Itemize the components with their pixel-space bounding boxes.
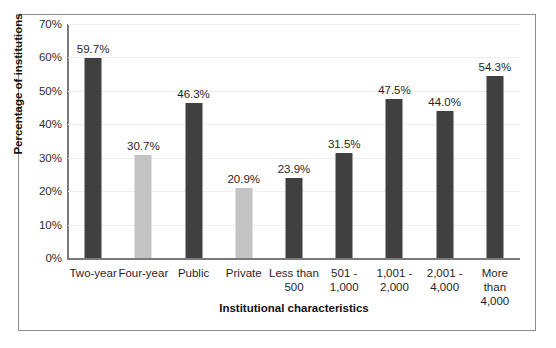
y-axis-tick-label: 60% — [18, 51, 62, 63]
bar-value-label: 46.3% — [177, 88, 210, 100]
x-axis-category-label: Private — [219, 266, 269, 280]
y-axis-tick-label: 30% — [18, 152, 62, 164]
y-axis-tick-label: 0% — [18, 252, 62, 264]
x-axis-category-label: 2,001 - 4,000 — [420, 266, 470, 294]
bar-group: 46.3% — [168, 24, 218, 258]
y-axis-tick-label: 20% — [18, 185, 62, 197]
y-axis-tick-label: 70% — [18, 18, 62, 30]
x-axis-category-label: Two-year — [68, 266, 118, 280]
bar — [135, 155, 152, 258]
bar-value-label: 47.5% — [378, 84, 411, 96]
bar — [386, 99, 403, 258]
gridline — [68, 258, 520, 259]
plot-area: 59.7%30.7%46.3%20.9%23.9%31.5%47.5%44.0%… — [68, 24, 520, 258]
bar-group: 44.0% — [420, 24, 470, 258]
x-axis-category-label: Four-year — [118, 266, 168, 280]
x-axis-title: Institutional characteristics — [68, 302, 520, 314]
bar-value-label: 23.9% — [278, 163, 311, 175]
bar-group: 30.7% — [118, 24, 168, 258]
bar-group: 20.9% — [219, 24, 269, 258]
bar-value-label: 44.0% — [428, 96, 461, 108]
bar-value-label: 31.5% — [328, 138, 361, 150]
x-axis-category-label: Public — [168, 266, 218, 280]
y-axis-tick-label: 50% — [18, 85, 62, 97]
bar-group: 31.5% — [319, 24, 369, 258]
bar — [235, 188, 252, 258]
y-axis-tick-label: 10% — [18, 219, 62, 231]
bar-value-label: 30.7% — [127, 140, 160, 152]
bar-chart-figure: 70%60%50%40%30%20%10%0% 59.7%30.7%46.3%2… — [0, 0, 556, 348]
bar-value-label: 54.3% — [479, 61, 512, 73]
x-axis-category-label: 1,001 - 2,000 — [369, 266, 419, 294]
bar-group: 54.3% — [470, 24, 520, 258]
y-axis-tick-label: 40% — [18, 118, 62, 130]
bar — [285, 178, 302, 258]
bar-value-label: 20.9% — [227, 173, 260, 185]
bar-group: 47.5% — [369, 24, 419, 258]
bar — [336, 153, 353, 258]
bar — [185, 103, 202, 258]
bar — [436, 111, 453, 258]
y-axis-title: Percentage of institutions — [12, 4, 24, 164]
x-axis-category-label: More than 4,000 — [470, 266, 520, 308]
bar — [486, 76, 503, 258]
bar-group: 23.9% — [269, 24, 319, 258]
bar-value-label: 59.7% — [77, 43, 110, 55]
x-axis-category-label: Less than 500 — [269, 266, 319, 294]
x-axis-category-label: 501 - 1,000 — [319, 266, 369, 294]
bar — [85, 58, 102, 258]
bar-group: 59.7% — [68, 24, 118, 258]
